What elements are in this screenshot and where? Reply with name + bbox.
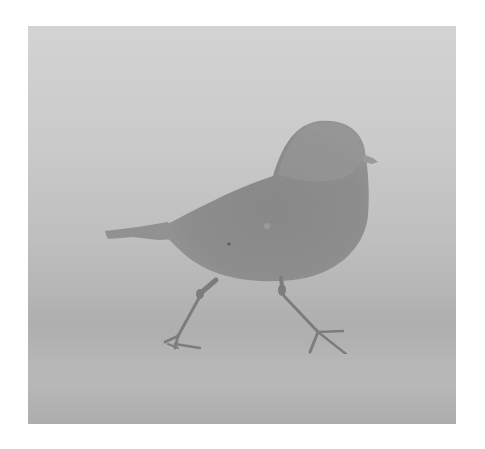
bird-highlight	[264, 223, 270, 229]
page: Grayscale image of a small plump bird si…	[0, 0, 485, 449]
bird-marking	[227, 242, 230, 245]
photograph: Grayscale image of a small plump bird si…	[28, 26, 456, 424]
bird-illustration	[28, 26, 456, 424]
